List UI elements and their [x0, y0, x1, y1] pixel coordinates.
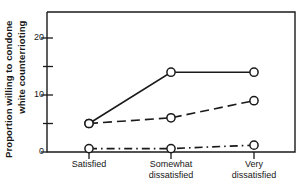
plot-area — [0, 0, 302, 185]
data-point-marker — [250, 68, 258, 76]
data-point-marker — [167, 144, 175, 152]
chart-figure: Proportion willing to condone white coun… — [0, 0, 302, 185]
axes-frame — [47, 12, 295, 152]
series-lines — [89, 72, 254, 148]
data-point-marker — [167, 114, 175, 122]
data-point-marker — [85, 144, 93, 152]
data-point-marker — [167, 68, 175, 76]
data-point-marker — [250, 97, 258, 105]
data-point-marker — [250, 141, 258, 149]
data-point-marker — [85, 119, 93, 127]
